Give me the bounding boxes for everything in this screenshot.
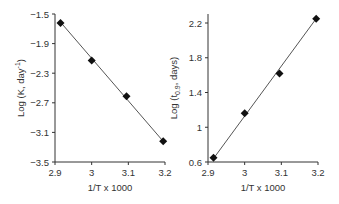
x-tick-label: 3.1 xyxy=(122,167,135,178)
y-tick-label: −1.9 xyxy=(30,38,49,49)
x-tick-label: 3 xyxy=(242,167,247,178)
data-point-diamond xyxy=(276,69,284,77)
y-tick-label: 1 xyxy=(197,122,202,133)
right-y-axis-label: Log (t0.9, days) xyxy=(168,57,181,120)
right-plot-area xyxy=(210,15,321,162)
y-tick-label: 0.6 xyxy=(189,157,202,168)
trend-line xyxy=(61,22,164,141)
left-x-axis: 2.933.13.2 xyxy=(48,162,171,178)
x-tick-label: 3 xyxy=(89,167,94,178)
left-plot-area xyxy=(57,19,168,145)
x-tick-label: 2.9 xyxy=(201,167,214,178)
y-tick-label: 2.2 xyxy=(189,18,202,29)
right-y-axis: 0.611.41.82.2 xyxy=(189,14,208,168)
arrhenius-charts: −1.5−1.9−2.3−2.7−3.1−3.5 2.933.13.2 Log … xyxy=(0,0,339,204)
y-tick-label: 1.8 xyxy=(189,52,202,63)
trend-line xyxy=(214,19,317,159)
right-x-axis: 2.933.13.2 xyxy=(201,162,324,178)
y-tick-label: 1.4 xyxy=(189,87,202,98)
x-tick-label: 3.2 xyxy=(311,167,324,178)
y-tick-label: −1.5 xyxy=(30,9,49,20)
data-point-diamond xyxy=(312,15,320,23)
y-tick-label: −2.7 xyxy=(30,97,49,108)
x-tick-label: 2.9 xyxy=(48,167,61,178)
y-tick-label: −3.5 xyxy=(30,157,49,168)
right-chart: 0.611.41.82.2 2.933.13.2 Log (t0.9, days… xyxy=(168,14,325,193)
y-tick-label: −2.3 xyxy=(30,68,49,79)
data-point-diamond xyxy=(123,92,131,100)
y-tick-label: −3.1 xyxy=(30,127,49,138)
left-chart: −1.5−1.9−2.3−2.7−3.1−3.5 2.933.13.2 Log … xyxy=(14,9,172,194)
right-x-axis-label: 1/T x 1000 xyxy=(241,182,286,193)
x-tick-label: 3.1 xyxy=(275,167,288,178)
data-point-diamond xyxy=(88,57,96,65)
left-x-axis-label: 1/T x 1000 xyxy=(88,182,133,193)
data-point-diamond xyxy=(241,109,249,117)
x-tick-label: 3.2 xyxy=(158,167,171,178)
left-y-axis: −1.5−1.9−2.3−2.7−3.1−3.5 xyxy=(30,9,55,168)
left-y-axis-label: Log (K, day-1) xyxy=(14,59,26,117)
